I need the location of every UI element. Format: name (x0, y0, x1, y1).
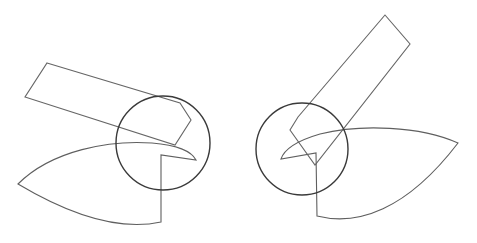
figure-svg (0, 0, 477, 243)
drawing-canvas (0, 0, 477, 243)
canvas-background (0, 0, 477, 243)
